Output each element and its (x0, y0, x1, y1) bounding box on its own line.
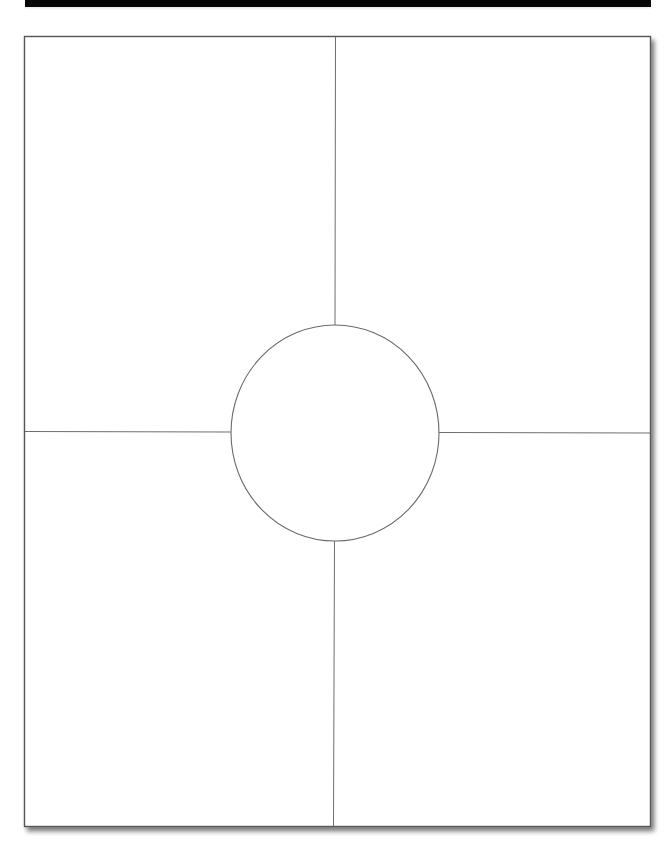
horizontal-divider-right (439, 433, 650, 434)
four-square-organizer (0, 0, 672, 851)
center-circle-area (231, 325, 439, 541)
horizontal-divider-left (25, 432, 231, 433)
